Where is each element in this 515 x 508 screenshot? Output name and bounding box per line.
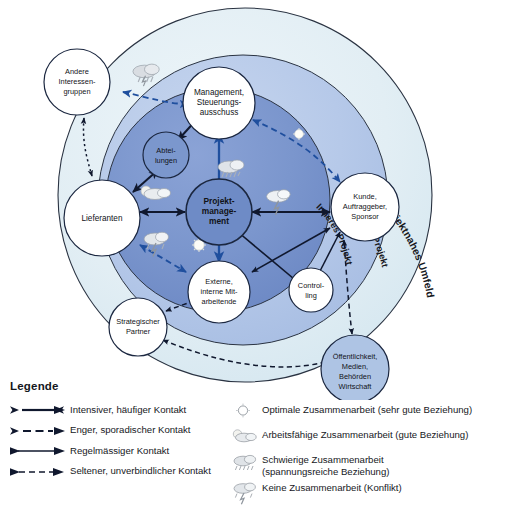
legend-item-schwierige-zusammenarbeit: Schwierige Zusammenarbeit (spannungsreic… <box>232 453 515 478</box>
legend-item-optimale-zusammenarbeit: Optimale Zusammenarbeit (sehr gute Bezie… <box>232 403 515 425</box>
sun-icon <box>232 403 262 425</box>
legend-item-label: Schwierige Zusammenarbeit (spannungsreic… <box>262 453 389 478</box>
legend-title: Legende <box>10 380 59 392</box>
rain-cloud-icon <box>232 453 262 475</box>
node-kunde-auftraggeber-sponsor[interactable]: Kunde, Auftraggeber, Sponsor <box>331 173 399 241</box>
legend-item-label: Keine Zusammenarbeit (Konflikt) <box>262 481 402 494</box>
legend-item-intensiver-haeufiger-kontakt: Intensiver, häufiger Kontakt <box>8 403 256 418</box>
legend-item-regelmaessiger-kontakt: Regelmässiger Kontakt <box>8 444 256 459</box>
node-management-steuerungsausschuss[interactable]: Management, Steuerungs- ausschuss <box>183 67 255 139</box>
legend-item-label: Enger, sporadischer Kontakt <box>70 424 191 437</box>
legend-item-label: Intensiver, häufiger Kontakt <box>70 403 186 416</box>
legend-item-seltener-unverbindlicher-kontakt: Seltener, unverbindlicher Kontakt <box>8 465 256 480</box>
stakeholder-circle-diagram: Projektnahes Umfeld Äusseres Projekt Inn… <box>0 0 515 400</box>
legend-line-styles: Intensiver, häufiger Kontakt Enger, spor… <box>8 403 256 485</box>
legend-item-label: Regelmässiger Kontakt <box>70 444 169 457</box>
node-strategischer-partner[interactable]: Strategischer Partner <box>109 298 167 356</box>
sun-behind-cloud-icon <box>232 428 262 450</box>
legend-item-keine-zusammenarbeit: Keine Zusammenarbeit (Konflikt) <box>232 481 515 503</box>
node-lieferanten[interactable]: Lieferanten <box>64 180 140 256</box>
node-externe-interne-mitarbeitende[interactable]: Externe, interne Mit- arbeitende <box>188 261 250 323</box>
legend: Legende Intensiver, häufiger Kontakt <box>0 372 515 508</box>
node-andere-interessengruppen[interactable]: Andere Interessen- gruppen <box>44 49 110 115</box>
node-projektmanagement[interactable]: Projekt- manage- ment <box>186 179 252 245</box>
legend-item-label: Optimale Zusammenarbeit (sehr gute Bezie… <box>262 403 472 416</box>
line-style-solid-thick-both <box>8 403 70 417</box>
line-style-dashed-thick-both <box>8 424 70 438</box>
diagram-stage: Projektnahes Umfeld Äusseres Projekt Inn… <box>0 0 515 508</box>
legend-item-arbeitsfaehige-zusammenarbeit: Arbeitsfähige Zusammenarbeit (gute Bezie… <box>232 428 515 450</box>
line-style-solid-thin-both <box>8 444 70 458</box>
node-controlling[interactable]: Control- ling <box>289 268 333 312</box>
legend-item-label: Seltener, unverbindlicher Kontakt <box>70 465 211 478</box>
legend-item-label: Arbeitsfähige Zusammenarbeit (gute Bezie… <box>262 428 468 441</box>
thunderstorm-icon <box>232 481 262 503</box>
line-style-dashed-thin-both <box>8 465 70 479</box>
legend-weather-symbols: Optimale Zusammenarbeit (sehr gute Bezie… <box>232 403 515 506</box>
legend-item-enger-sporadischer-kontakt: Enger, sporadischer Kontakt <box>8 424 256 439</box>
node-abteilungen[interactable]: Abtei- lungen <box>143 132 189 178</box>
